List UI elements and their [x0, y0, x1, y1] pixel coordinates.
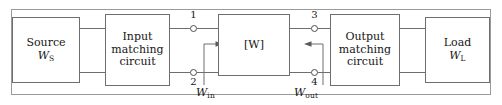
- w-out-label-sub: out: [305, 91, 318, 100]
- w-in-label: Win: [196, 86, 215, 99]
- block-output-matching-circuit: Output matching circuit: [330, 14, 400, 86]
- port-label-3: 3: [308, 9, 322, 20]
- block-load-symbol-sub: L: [461, 54, 466, 63]
- wire-port1-to-network: [197, 28, 218, 29]
- output-matching-line-3: circuit: [347, 56, 383, 69]
- wire-source-to-input-top: [80, 28, 105, 29]
- w-out-label: Wout: [294, 86, 318, 99]
- input-matching-line-1: Input: [123, 31, 153, 44]
- wire-output-to-load-top: [400, 28, 425, 29]
- port-terminal-3: [311, 25, 318, 32]
- port-label-1: 1: [187, 9, 201, 20]
- w-out-label-base: W: [294, 86, 305, 99]
- wire-source-to-input-bottom: [80, 72, 105, 73]
- port-terminal-2: [190, 69, 197, 76]
- wire-input-to-port2: [170, 72, 190, 73]
- wire-input-to-port1: [170, 28, 190, 29]
- w-in-label-sub: in: [207, 91, 215, 100]
- block-source-symbol: WS: [38, 50, 55, 64]
- wire-output-to-load-bottom: [400, 72, 425, 73]
- block-source-symbol-base: W: [38, 49, 49, 62]
- input-matching-line-3: circuit: [119, 56, 155, 69]
- block-load: Load WL: [425, 17, 490, 83]
- network-matrix-label: [W]: [244, 39, 264, 52]
- wire-port3-to-output: [318, 28, 330, 29]
- block-source-symbol-sub: S: [49, 54, 54, 63]
- block-input-matching-circuit: Input matching circuit: [105, 14, 170, 86]
- block-source: Source WS: [12, 17, 80, 83]
- block-load-symbol: WL: [449, 50, 466, 64]
- block-diagram-figure: Source WS Input matching circuit [W] Out…: [0, 0, 502, 105]
- block-network-matrix: [W]: [218, 14, 290, 76]
- wire-network-to-port3: [290, 28, 311, 29]
- port-terminal-4: [311, 69, 318, 76]
- w-in-label-base: W: [196, 86, 207, 99]
- block-load-symbol-base: W: [449, 49, 460, 62]
- port-terminal-1: [190, 25, 197, 32]
- output-matching-line-1: Output: [345, 31, 384, 44]
